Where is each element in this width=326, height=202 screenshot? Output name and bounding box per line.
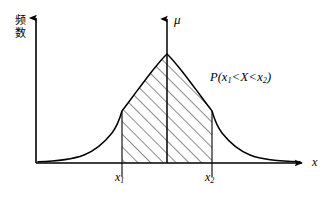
normal-distribution-figure: 频数 μ x P(x1<X<x2) x1 x2 — [0, 0, 326, 202]
lower-bound-label: x1 — [115, 170, 124, 185]
y-axis-label: 频数 — [10, 14, 30, 40]
hatch-fill — [118, 40, 218, 168]
distribution-plot — [0, 0, 326, 202]
probability-annotation: P(x1<X<x2) — [210, 70, 271, 85]
mean-axis-label: μ — [174, 12, 181, 28]
shaded-probability-area — [118, 40, 218, 168]
probability-op-2: < — [248, 70, 257, 84]
upper-bound-subscript: 2 — [210, 176, 214, 185]
probability-prefix: P( — [210, 70, 222, 84]
probability-op-1: < — [232, 70, 241, 84]
x-axis-label: x — [312, 155, 317, 170]
upper-bound-label: x2 — [205, 170, 214, 185]
lower-bound-subscript: 1 — [120, 176, 124, 185]
probability-lower-sub: 1 — [227, 76, 231, 85]
probability-suffix: ) — [267, 70, 271, 84]
